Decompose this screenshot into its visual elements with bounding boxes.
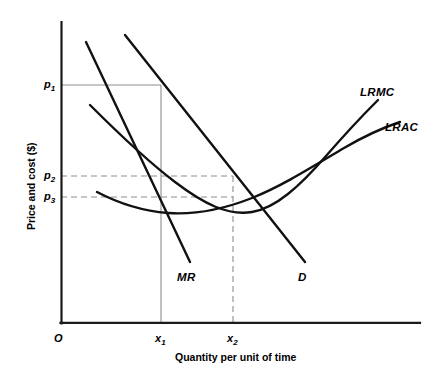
curve-d: [125, 35, 305, 262]
curve-label-d: D: [298, 272, 307, 284]
y-axis-title: Price and cost ($): [26, 142, 37, 230]
price-tick-p3-base: p: [44, 190, 51, 202]
curve-lrac: [97, 122, 400, 213]
price-tick-p2-sub: 2: [51, 175, 55, 184]
quantity-tick-x2-sub: 2: [233, 338, 237, 347]
curve-label-mr: MR: [177, 272, 196, 284]
quantity-tick-x1-sub: 1: [161, 338, 165, 347]
price-tick-p2-base: p: [44, 169, 51, 181]
price-tick-p3: p3: [44, 191, 55, 202]
curve-label-lrac: LRAC: [385, 122, 418, 134]
origin-label: O: [54, 333, 63, 344]
price-tick-p1: p1: [44, 79, 55, 90]
price-tick-p2: p2: [44, 170, 55, 181]
quantity-tick-x2: x2: [227, 333, 238, 344]
price-tick-p1-sub: 1: [51, 84, 55, 93]
price-tick-p3-sub: 3: [51, 196, 55, 205]
curve-mr: [86, 42, 190, 262]
price-tick-p1-base: p: [44, 78, 51, 90]
axes: [61, 22, 421, 324]
x-axis-title: Quantity per unit of time: [175, 352, 296, 363]
plot-canvas: [0, 0, 435, 378]
curve-label-lrmc: LRMC: [360, 87, 394, 99]
quantity-tick-x1: x1: [155, 333, 166, 344]
curves: [86, 35, 400, 262]
economics-diagram: Price and cost ($) Quantity per unit of …: [0, 0, 435, 378]
curve-lrmc: [90, 100, 378, 213]
